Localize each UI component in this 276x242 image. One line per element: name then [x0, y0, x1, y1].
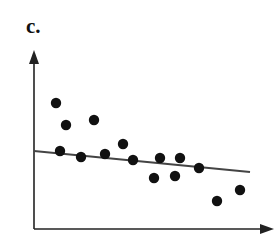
- data-point: [51, 98, 61, 108]
- data-point: [100, 149, 110, 159]
- y-axis: [29, 50, 39, 229]
- data-point: [76, 152, 86, 162]
- regression-line: [34, 151, 250, 172]
- data-points: [51, 98, 245, 206]
- x-axis-arrow-icon: [260, 224, 274, 234]
- data-point: [61, 120, 71, 130]
- scatter-plot: [0, 0, 276, 242]
- data-point: [235, 185, 245, 195]
- data-point: [89, 115, 99, 125]
- data-point: [170, 171, 180, 181]
- data-point: [194, 163, 204, 173]
- y-axis-arrow-icon: [29, 50, 39, 64]
- data-point: [155, 153, 165, 163]
- data-point: [149, 173, 159, 183]
- data-point: [128, 155, 138, 165]
- data-point: [175, 153, 185, 163]
- x-axis: [34, 224, 274, 234]
- data-point: [212, 196, 222, 206]
- data-point: [118, 139, 128, 149]
- data-point: [55, 146, 65, 156]
